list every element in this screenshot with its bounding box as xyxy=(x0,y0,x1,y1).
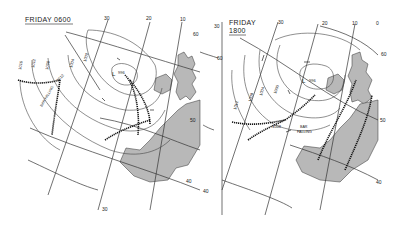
lat-label: 40 xyxy=(186,178,192,184)
isobar-label: 1004 xyxy=(258,86,265,97)
lon-label: 0 xyxy=(376,20,379,26)
land-europe xyxy=(120,100,200,182)
isobar-outer xyxy=(275,33,360,50)
lat-label-west: 40 xyxy=(203,188,209,194)
isobar-1000 xyxy=(86,30,156,95)
lat-label-west: 60 xyxy=(217,55,223,61)
bar-falling-note-line2: FALLING xyxy=(297,130,312,134)
wind-arrow-icon xyxy=(262,55,264,61)
grid-lat-60-west xyxy=(200,52,218,58)
wind-arrow-icon xyxy=(102,98,105,101)
wind-arrow-icon xyxy=(117,58,120,60)
bar-falling-note-line1: BAR xyxy=(300,125,308,129)
isobar xyxy=(20,80,60,150)
land-british-isles xyxy=(348,52,372,104)
low-pressure-value: 996 xyxy=(118,70,125,75)
isobar-label: 1016 xyxy=(17,60,24,70)
lon-label: 20 xyxy=(322,20,328,26)
isobar xyxy=(32,60,170,154)
lat-label: 60 xyxy=(193,31,199,37)
land-british-isles xyxy=(174,52,196,100)
grid-lat-40 xyxy=(222,180,292,208)
land-ireland xyxy=(326,74,344,94)
isobar-label: 1012 xyxy=(30,58,37,68)
grid-lat-50-west xyxy=(203,125,214,130)
panel-title-time: 1800 xyxy=(229,27,246,34)
grid-lon-20 xyxy=(98,22,150,210)
grid-lat-40b xyxy=(28,160,98,190)
isobar-label: 1008 xyxy=(247,92,254,103)
grid-lon-0 xyxy=(320,24,355,210)
lat-label: 40 xyxy=(376,179,382,185)
grid-lon-20 xyxy=(222,22,278,190)
panel-friday-0600: FRIDAY 0600 30 20 10 30 1016 1012 1008 1… xyxy=(17,15,200,212)
land-europe xyxy=(296,100,378,182)
lat-label: 60 xyxy=(381,51,387,57)
lon-label: 20 xyxy=(146,15,152,21)
lon-label: 10 xyxy=(352,20,358,26)
lon-label: 30 xyxy=(278,19,284,25)
panel-title: FRIDAY 0600 xyxy=(25,16,71,23)
lon-label: 30 xyxy=(214,23,220,29)
lat-label: 50 xyxy=(380,117,386,123)
lat-label: 50 xyxy=(190,117,196,123)
isobar-label: 1000 xyxy=(272,84,280,95)
land-ireland xyxy=(154,74,172,94)
isobar xyxy=(68,55,162,110)
panel-friday-1800: FRIDAY 1800 30 20 10 0 30 1012 1008 1004 xyxy=(200,19,387,215)
lon-label: 30 xyxy=(104,15,110,21)
weather-charts: FRIDAY 0600 30 20 10 30 1016 1012 1008 1… xyxy=(0,0,403,230)
grid-lon-30 xyxy=(48,20,108,195)
low-pressure-marker: L xyxy=(112,71,116,77)
grid-lat-60 xyxy=(320,26,378,55)
lon-label: 30 xyxy=(102,206,108,212)
low-pressure-value: 996 xyxy=(309,78,316,83)
grid-lon-10 xyxy=(265,24,318,215)
isobar-label: 1004 xyxy=(68,58,75,69)
panel-title-day: FRIDAY xyxy=(229,19,256,26)
warm-front-east xyxy=(105,120,150,140)
wind-arrow-icon xyxy=(288,90,290,94)
lon-label: 10 xyxy=(180,16,186,22)
bar-falling-note: BAR FALLING xyxy=(39,85,54,107)
